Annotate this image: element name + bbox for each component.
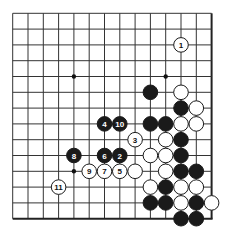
black-stone xyxy=(174,211,189,226)
black-stone xyxy=(174,164,189,179)
stone-disc xyxy=(189,101,204,116)
stone-disc xyxy=(189,211,204,226)
stone-disc xyxy=(143,148,158,163)
black-stone xyxy=(189,196,204,211)
stone-disc xyxy=(174,180,189,195)
white-stone-1: 1 xyxy=(174,38,189,53)
white-stone-11: 11 xyxy=(51,180,66,195)
stone-disc xyxy=(143,196,158,211)
move-number: 9 xyxy=(87,167,92,176)
black-stone-4: 4 xyxy=(97,117,112,132)
move-number: 7 xyxy=(102,167,107,176)
white-stone xyxy=(143,148,158,163)
stone-disc xyxy=(204,196,219,211)
white-stone-5: 5 xyxy=(113,164,128,179)
black-stone-8: 8 xyxy=(67,148,82,163)
stone-disc xyxy=(189,117,204,132)
black-stone xyxy=(174,101,189,116)
stone-disc xyxy=(158,196,173,211)
stone-disc xyxy=(158,132,173,147)
white-stone xyxy=(174,196,189,211)
black-stone xyxy=(189,211,204,226)
stone-disc xyxy=(174,211,189,226)
stone-disc xyxy=(174,85,189,100)
stone-disc xyxy=(174,117,189,132)
white-stone xyxy=(189,117,204,132)
black-stone-2: 2 xyxy=(113,148,128,163)
stone-disc xyxy=(189,180,204,195)
stone-disc xyxy=(143,180,158,195)
black-stone xyxy=(143,117,158,132)
move-number: 11 xyxy=(54,183,63,192)
stone-disc xyxy=(189,164,204,179)
white-stone xyxy=(174,85,189,100)
white-stone xyxy=(204,196,219,211)
stone-disc xyxy=(128,164,143,179)
black-stone-6: 6 xyxy=(97,148,112,163)
white-stone-9: 9 xyxy=(82,164,97,179)
move-number: 1 xyxy=(179,41,184,50)
move-number: 5 xyxy=(118,167,123,176)
stone-disc xyxy=(158,117,173,132)
move-number: 4 xyxy=(102,120,107,129)
black-stone xyxy=(143,85,158,100)
stone-disc xyxy=(158,180,173,195)
stone-disc xyxy=(174,101,189,116)
move-number: 8 xyxy=(72,152,77,161)
stone-disc xyxy=(189,196,204,211)
black-stone xyxy=(143,196,158,211)
black-stone-10: 10 xyxy=(113,117,128,132)
white-stone xyxy=(174,117,189,132)
black-stone xyxy=(158,180,173,195)
move-number: 10 xyxy=(115,120,124,129)
stone-disc xyxy=(158,164,173,179)
black-stone xyxy=(158,196,173,211)
white-stone xyxy=(158,148,173,163)
stone-disc xyxy=(158,148,173,163)
star-point xyxy=(72,169,76,173)
white-stone-3: 3 xyxy=(128,132,143,147)
black-stone xyxy=(158,117,173,132)
go-board: 1234567891011 xyxy=(0,0,226,235)
stone-disc xyxy=(174,196,189,211)
star-point xyxy=(164,74,168,78)
move-number: 2 xyxy=(118,152,123,161)
stone-disc xyxy=(143,117,158,132)
black-stone xyxy=(174,148,189,163)
white-stone xyxy=(174,180,189,195)
white-stone-7: 7 xyxy=(97,164,112,179)
white-stone xyxy=(158,164,173,179)
white-stone xyxy=(189,180,204,195)
white-stone xyxy=(128,164,143,179)
star-point xyxy=(72,74,76,78)
black-stone xyxy=(189,164,204,179)
stone-disc xyxy=(174,148,189,163)
stone-disc xyxy=(174,164,189,179)
black-stone xyxy=(174,132,189,147)
white-stone xyxy=(189,101,204,116)
white-stone xyxy=(158,132,173,147)
move-number: 6 xyxy=(102,152,107,161)
stone-disc xyxy=(143,85,158,100)
stone-disc xyxy=(174,132,189,147)
move-number: 3 xyxy=(133,136,138,145)
white-stone xyxy=(143,180,158,195)
